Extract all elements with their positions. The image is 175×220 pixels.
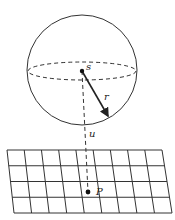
label-s: s [86,61,91,72]
label-r: r [104,91,110,102]
diagram-canvas: s r u P [0,0,175,220]
label-p: P [95,186,103,197]
point-p [86,190,91,195]
label-u: u [89,128,95,139]
center-point [80,69,84,73]
ground-plane-grid [7,150,172,213]
distance-line [82,71,88,192]
